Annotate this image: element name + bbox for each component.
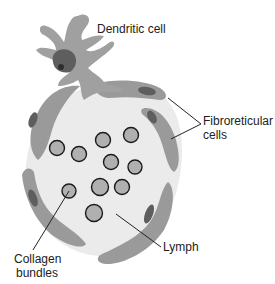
- label-fibroreticular-1: Fibroreticular: [203, 114, 273, 128]
- label-lymph: Lymph: [163, 240, 199, 254]
- label-collagen-2: bundles: [16, 266, 58, 280]
- diagram-canvas: Dendritic cell Fibroreticular cells Coll…: [0, 0, 275, 284]
- dendritic-nucleolus: [58, 64, 64, 70]
- dendritic-nucleus: [53, 49, 76, 72]
- label-fibroreticular-2: cells: [203, 128, 227, 142]
- label-dendritic-cell: Dendritic cell: [97, 22, 166, 36]
- label-collagen-1: Collagen: [14, 252, 61, 266]
